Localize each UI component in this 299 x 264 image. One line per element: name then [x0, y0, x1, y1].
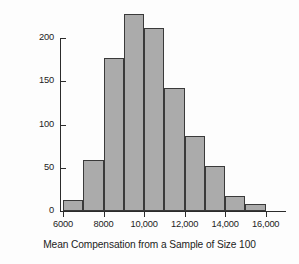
histogram-bar [245, 204, 265, 211]
histogram-bar [63, 200, 83, 211]
histogram-bar [225, 196, 245, 211]
histogram-figure: Number of CEOs Mean Compensation from a … [0, 0, 299, 264]
histogram-bar [164, 88, 184, 211]
histogram-bar [83, 160, 103, 211]
histogram-bar [124, 14, 144, 211]
histogram-bars [0, 0, 299, 264]
plot-area: Number of CEOs Mean Compensation from a … [0, 0, 299, 264]
histogram-bar [144, 28, 164, 211]
histogram-bar [104, 58, 124, 211]
histogram-bar [185, 136, 205, 211]
histogram-bar [205, 166, 225, 211]
